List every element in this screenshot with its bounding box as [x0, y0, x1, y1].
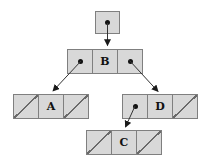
node-a-label-cell: A — [39, 95, 64, 118]
node-c-label: C — [120, 137, 129, 148]
root-pointer-node — [95, 11, 120, 34]
pointer-dot — [78, 59, 83, 64]
node-c: C — [86, 130, 162, 155]
node-d-left-pointer-cell — [123, 95, 148, 118]
node-b: B — [67, 49, 143, 74]
node-d-label: D — [155, 101, 165, 112]
node-b-label: B — [100, 56, 109, 67]
pointer-dot — [105, 20, 110, 25]
root-pointer-cell — [96, 12, 119, 33]
pointer-dot — [128, 59, 133, 64]
node-b-right-pointer-cell — [118, 50, 142, 73]
node-a-label: A — [47, 101, 56, 112]
node-a-left-null-cell — [14, 95, 39, 118]
node-d-label-cell: D — [148, 95, 173, 118]
pointer-dot — [133, 104, 138, 109]
tree-diagram: B A D C — [0, 0, 210, 164]
node-b-label-cell: B — [93, 50, 118, 73]
node-a: A — [13, 94, 89, 119]
node-c-right-null-cell — [137, 131, 161, 154]
node-a-right-null-cell — [64, 95, 88, 118]
node-d: D — [122, 94, 198, 119]
node-d-right-null-cell — [173, 95, 197, 118]
node-b-left-pointer-cell — [68, 50, 93, 73]
node-c-label-cell: C — [112, 131, 137, 154]
node-c-left-null-cell — [87, 131, 112, 154]
